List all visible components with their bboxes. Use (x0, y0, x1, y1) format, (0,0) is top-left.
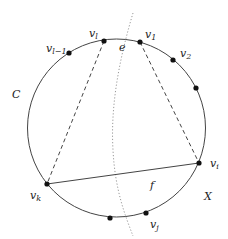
vertex-v-k (44, 181, 49, 186)
vertex-unlabeled-bottom (107, 215, 112, 220)
label-circle-c: C (12, 88, 21, 101)
dashed-edge-vl-vk (47, 41, 104, 184)
label-chord-f: f (149, 179, 156, 192)
label-v-k: vk (30, 189, 41, 203)
vertex-v-j (143, 210, 148, 215)
chord-f (47, 163, 199, 184)
vertex-v-l (101, 38, 106, 43)
label-v-1: v1 (145, 28, 156, 42)
label-v-j: vj (150, 218, 159, 232)
vertex-unlabeled-right (193, 85, 198, 90)
vertex-v-2 (170, 57, 175, 62)
vertex-v-l-minus-1 (66, 50, 71, 55)
label-v-i: vi (210, 157, 219, 171)
label-v-l-minus-1: vl−1 (46, 42, 67, 56)
label-v-2: v2 (180, 47, 191, 61)
label-edge-e: e (119, 41, 126, 54)
vertex-v-1 (137, 39, 142, 44)
cycle-c (28, 39, 206, 217)
diagram-canvas: C X e f vl−1 vl v1 v2 vi vj vk (0, 0, 228, 239)
label-region-x: X (203, 190, 213, 203)
vertex-v-i (196, 160, 201, 165)
label-v-l: vl (89, 27, 98, 41)
